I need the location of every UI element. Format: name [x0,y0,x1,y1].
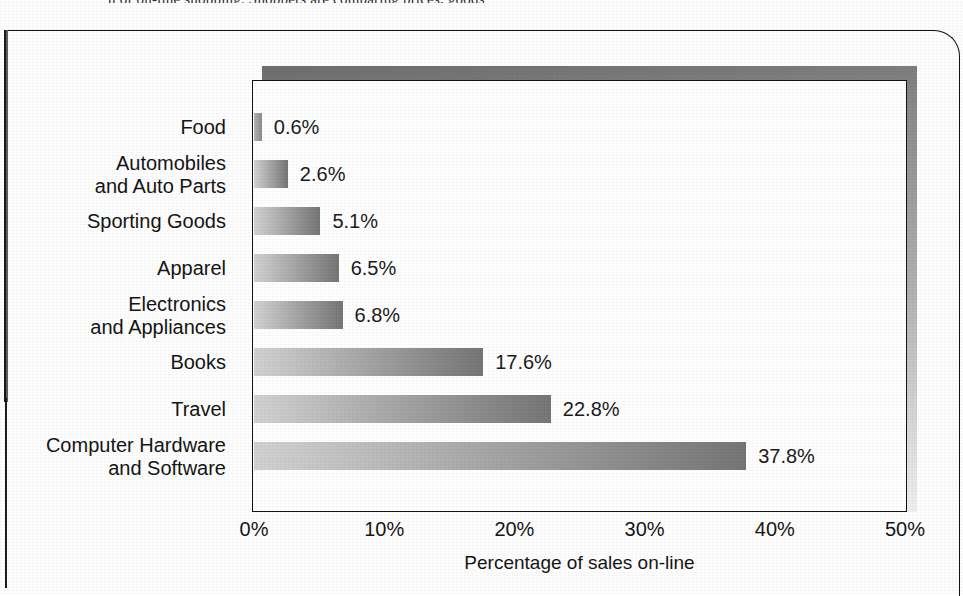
bar-series: 0.6%2.6%5.1%6.5%6.8%17.6%22.8%37.8% [254,82,905,510]
bar [254,395,551,423]
bar-row: 22.8% [254,386,905,433]
bar-row: 6.5% [254,245,905,292]
bar-value-label: 2.6% [300,160,346,188]
bar [254,160,288,188]
bar [254,442,746,470]
category-label-line: Computer Hardware [46,434,226,457]
x-axis-tick-label: 20% [494,518,534,541]
bar-value-label: 5.1% [332,207,378,235]
bar-row: 0.6% [254,104,905,151]
category-label-line: and Software [108,457,226,480]
bar [254,348,483,376]
bar-value-label: 0.6% [274,113,320,141]
bar-row: 2.6% [254,151,905,198]
category-label: Books [170,339,226,386]
bar-row: 6.8% [254,292,905,339]
bar [254,207,320,235]
bar [254,254,339,282]
category-label-line: Travel [171,398,226,421]
bar-value-label: 22.8% [563,395,620,423]
bar-value-label: 37.8% [758,442,815,470]
x-axis-tick-label: 0% [240,518,269,541]
x-axis-tick-label: 40% [755,518,795,541]
clipped-caption-text: n of on-line shopping. Shoppers are comp… [108,0,788,3]
category-label-line: Books [170,351,226,374]
x-axis-ticks: 0%10%20%30%40%50% [0,518,963,548]
category-label-line: Food [180,116,226,139]
category-label-line: Sporting Goods [87,210,226,233]
bar-row: 17.6% [254,339,905,386]
bar-row: 5.1% [254,198,905,245]
x-axis-tick-label: 30% [625,518,665,541]
x-axis-tick-label: 50% [885,518,925,541]
x-axis-tick-label: 10% [364,518,404,541]
category-axis-labels: FoodAutomobilesand Auto PartsSporting Go… [0,82,240,510]
category-label: Automobilesand Auto Parts [95,151,226,198]
bar-value-label: 6.5% [351,254,397,282]
category-label-line: and Appliances [90,316,226,339]
bar [254,301,343,329]
category-label: Travel [171,386,226,433]
category-label-line: and Auto Parts [95,175,226,198]
x-axis-title: Percentage of sales on-line [252,552,907,574]
category-label: Computer Hardwareand Software [46,433,226,480]
category-label-line: Electronics [128,293,226,316]
category-label-line: Automobiles [116,152,226,175]
bar-value-label: 6.8% [355,301,401,329]
category-label: Food [180,104,226,151]
bar [254,113,262,141]
bar-value-label: 17.6% [495,348,552,376]
category-label: Electronicsand Appliances [90,292,226,339]
bar-row: 37.8% [254,433,905,480]
category-label: Apparel [157,245,226,292]
category-label-line: Apparel [157,257,226,280]
category-label: Sporting Goods [87,198,226,245]
